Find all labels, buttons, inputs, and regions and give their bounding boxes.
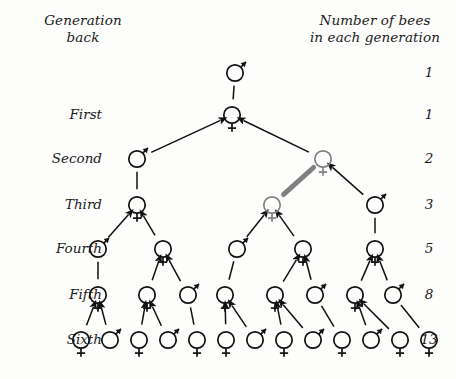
- lineage-edge: [283, 305, 303, 328]
- sex-symbol-circle: [264, 197, 280, 213]
- male-bee-symbol: [229, 238, 248, 257]
- sex-symbol-circle: [363, 332, 379, 348]
- sex-symbol-circle: [305, 332, 321, 348]
- lineage-edge: [279, 215, 294, 236]
- male-bee-symbol: [385, 284, 404, 303]
- male-bee-symbol: [129, 148, 148, 167]
- lineage-edge: [247, 215, 264, 237]
- lineage-edge: [322, 306, 334, 327]
- female-bee-symbol: [276, 332, 292, 357]
- female-bee-symbol: [217, 287, 233, 312]
- family-tree-graphic: [0, 0, 456, 379]
- female-bee-symbol: [155, 241, 171, 266]
- female-bee-symbol: [392, 332, 408, 357]
- generation-label-third: Third: [12, 196, 102, 212]
- highlighted-lineage-edge: [284, 168, 314, 195]
- lineage-edge: [380, 261, 388, 281]
- lineage-edge: [101, 307, 106, 325]
- lineage-edge: [359, 307, 365, 325]
- bee-count-3: 3: [412, 196, 446, 212]
- lineage-edge: [108, 215, 128, 238]
- sex-symbol-circle: [367, 241, 383, 257]
- sex-symbol-circle: [367, 197, 383, 213]
- node-layer: [73, 62, 437, 357]
- edge-layer: [87, 86, 420, 329]
- bee-ancestry-diagram: Generation back Number of bees in each g…: [0, 0, 456, 379]
- lineage-edge: [229, 261, 234, 280]
- sex-symbol-circle: [385, 287, 401, 303]
- female-bee-symbol: [131, 332, 147, 357]
- lineage-edge: [143, 216, 155, 236]
- sex-symbol-circle: [307, 287, 323, 303]
- sex-symbol-circle: [155, 241, 171, 257]
- sex-symbol-circle: [267, 287, 283, 303]
- bee-count-0: 1: [412, 64, 446, 80]
- male-bee-symbol: [247, 329, 266, 348]
- female-bee-symbol: [218, 332, 234, 357]
- sex-symbol-circle: [247, 332, 263, 348]
- lineage-edge: [142, 308, 145, 325]
- male-bee-symbol: [363, 329, 382, 348]
- lineage-edge: [152, 307, 161, 326]
- lineage-edge: [169, 260, 180, 281]
- generation-label-second: Second: [12, 150, 102, 166]
- sex-symbol-circle: [229, 241, 245, 257]
- female-bee-symbol: [189, 332, 205, 357]
- bee-count-5: 8: [412, 286, 446, 302]
- female-bee-symbol: [315, 151, 331, 176]
- generation-label-fifth: Fifth: [12, 286, 102, 302]
- female-bee-symbol: [267, 287, 283, 312]
- sex-symbol-circle: [180, 287, 196, 303]
- bee-count-6: 13: [412, 331, 446, 347]
- lineage-edge: [361, 261, 370, 281]
- female-bee-symbol: [129, 197, 145, 222]
- lineage-edge: [190, 307, 193, 324]
- male-bee-symbol: [367, 194, 386, 213]
- generation-label-first: First: [12, 106, 102, 122]
- female-bee-symbol: [334, 332, 350, 357]
- lineage-edge: [232, 306, 246, 327]
- female-bee-symbol: [295, 241, 311, 266]
- lineage-edge: [333, 167, 364, 194]
- sex-symbol-circle: [315, 151, 331, 167]
- bee-count-2: 2: [412, 150, 446, 166]
- male-bee-symbol: [305, 329, 324, 348]
- sex-symbol-circle: [131, 332, 147, 348]
- sex-symbol-circle: [129, 151, 145, 167]
- lineage-edge: [306, 261, 311, 280]
- sex-symbol-circle: [129, 197, 145, 213]
- generation-label-sixth: Sixth: [12, 331, 102, 347]
- sex-symbol-circle: [295, 241, 311, 257]
- sex-symbol-circle: [392, 332, 408, 348]
- lineage-edge: [87, 307, 94, 325]
- lineage-edge: [243, 121, 308, 153]
- sex-symbol-circle: [347, 287, 363, 303]
- lineage-edge: [401, 305, 419, 328]
- lineage-edge: [277, 307, 280, 324]
- sex-symbol-circle: [189, 332, 205, 348]
- lineage-edge: [233, 86, 234, 100]
- lineage-edge: [364, 304, 389, 329]
- generation-label-fourth: Fourth: [12, 240, 102, 256]
- female-bee-symbol: [224, 107, 240, 132]
- sex-symbol-circle: [227, 65, 243, 81]
- lineage-edge: [283, 260, 296, 282]
- sex-symbol-circle: [334, 332, 350, 348]
- sex-symbol-circle: [224, 107, 240, 123]
- lineage-edge: [151, 120, 220, 152]
- sex-symbol-circle: [102, 332, 118, 348]
- male-bee-symbol: [307, 284, 326, 303]
- bee-count-4: 5: [412, 240, 446, 256]
- sex-symbol-circle: [218, 332, 234, 348]
- sex-symbol-circle: [139, 287, 155, 303]
- male-bee-symbol: [180, 284, 199, 303]
- male-bee-symbol: [102, 329, 121, 348]
- sex-symbol-circle: [276, 332, 292, 348]
- female-bee-symbol: [347, 287, 363, 312]
- male-bee-symbol: [227, 62, 246, 81]
- lineage-edge: [152, 261, 159, 280]
- bee-count-1: 1: [412, 106, 446, 122]
- sex-symbol-circle: [217, 287, 233, 303]
- female-bee-symbol: [264, 197, 280, 222]
- sex-symbol-circle: [160, 332, 176, 348]
